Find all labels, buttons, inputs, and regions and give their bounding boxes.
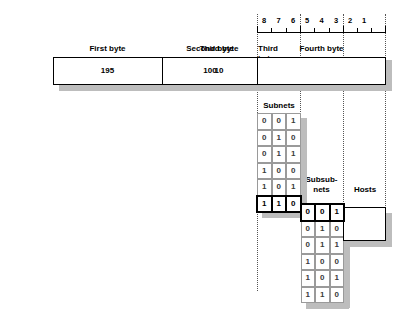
subnets-cell-r4-c1: 0 [272, 179, 287, 196]
subnets-cell-r0-c0: 0 [257, 113, 272, 130]
bit-ruler-tick-5r [314, 28, 315, 33]
subnets-cell-r2-c2: 1 [286, 146, 301, 163]
subnets-cell-r5-c1: 1 [272, 196, 287, 213]
subnets-cell-r1-c0: 0 [257, 130, 272, 147]
subsubnets-cell-r5-c0: 1 [301, 287, 316, 304]
bit-ruler-tick-3r [343, 26, 344, 33]
hosts-box-shadow-bottom [349, 241, 392, 247]
subsubnets-cell-r3-c1: 0 [315, 254, 330, 271]
subnets-cell-r4-c0: 1 [257, 179, 272, 196]
subsubnets-cell-r2-c1: 1 [315, 237, 330, 254]
subsubnets-cell-r0-c2: 1 [330, 204, 345, 221]
subsubnets-cell-r1-c1: 1 [315, 221, 330, 238]
bit-ruler-tick-2r [357, 28, 358, 33]
bit-number-5: 5 [300, 16, 314, 25]
subnets-cell-r4-c2: 1 [286, 179, 301, 196]
bit-ruler-tick-1r [371, 28, 372, 33]
subsubnets-cell-r5-c1: 1 [315, 287, 330, 304]
subnets-cell-r5-c0: 1 [257, 196, 272, 213]
subsubnets-cell-r2-c0: 0 [301, 237, 316, 254]
bit-ruler-tick-6r [300, 26, 301, 33]
subsubnets-cell-r4-c2: 1 [330, 270, 345, 287]
subnets-shadow-right [301, 118, 307, 217]
bit-ruler-tick-7r [286, 28, 287, 33]
subnets-caption: Subnets [257, 101, 301, 111]
subnets-cell-r3-c1: 0 [272, 163, 287, 180]
subsubnets-cell-r3-c2: 0 [330, 254, 345, 271]
subsubnets-shadow-bottom [306, 303, 350, 309]
subnets-cell-r3-c0: 1 [257, 163, 272, 180]
subsubnets-cell-r0-c1: 0 [315, 204, 330, 221]
subnets-cell-r0-c1: 0 [272, 113, 287, 130]
byte-header-fourth: Fourth byte [257, 44, 386, 54]
subnets-cell-r1-c1: 1 [272, 130, 287, 147]
byte-value-third: 10 [180, 65, 258, 77]
bit-number-3: 3 [329, 16, 343, 25]
subsubnets-cell-r4-c0: 1 [301, 270, 316, 287]
bit-ruler-tick-8r [271, 28, 272, 33]
subsubnets-cell-r0-c0: 0 [301, 204, 316, 221]
subnets-cell-r2-c0: 0 [257, 146, 272, 163]
subnets-cell-r5-c2: 0 [286, 196, 301, 213]
subsubnets-cell-r3-c0: 1 [301, 254, 316, 271]
bit-ruler-tick-end [385, 26, 386, 33]
hosts-caption: Hosts [344, 185, 386, 195]
byte-header-first: First byte [53, 44, 162, 54]
bit-ruler-tick-8l [257, 26, 258, 33]
bit-ruler-tick-4r [329, 28, 330, 33]
subnets-cell-r3-c2: 0 [286, 163, 301, 180]
byte-value-first: 195 [53, 65, 162, 77]
byte-header-third-text: Third byte [180, 44, 258, 54]
bit-number-8: 8 [257, 16, 271, 25]
figure-canvas: 8 7 6 5 4 3 2 1 First byte Second byte T… [0, 0, 412, 318]
hosts-box [343, 207, 386, 241]
subnets-cell-r0-c2: 1 [286, 113, 301, 130]
subsubnets-cell-r1-c2: 0 [330, 221, 345, 238]
subsubnets-cell-r5-c2: 0 [330, 287, 345, 304]
bit-number-1: 1 [357, 16, 371, 25]
byte-bar-shadow [59, 84, 391, 91]
byte-bar-shadow-right [385, 60, 392, 91]
subsubnets-cell-r4-c1: 0 [315, 270, 330, 287]
bit-number-4: 4 [314, 16, 329, 25]
bit-number-2: 2 [343, 16, 357, 25]
subnets-cell-r1-c2: 0 [286, 130, 301, 147]
bit-ruler-baseline [257, 32, 386, 33]
subsubnets-cell-r2-c2: 1 [330, 237, 345, 254]
subnets-shadow-bottom [262, 212, 306, 218]
subsubnets-cell-r1-c0: 0 [301, 221, 316, 238]
bit-number-7: 7 [271, 16, 286, 25]
subnets-cell-r2-c1: 1 [272, 146, 287, 163]
bit-number-6: 6 [286, 16, 300, 25]
